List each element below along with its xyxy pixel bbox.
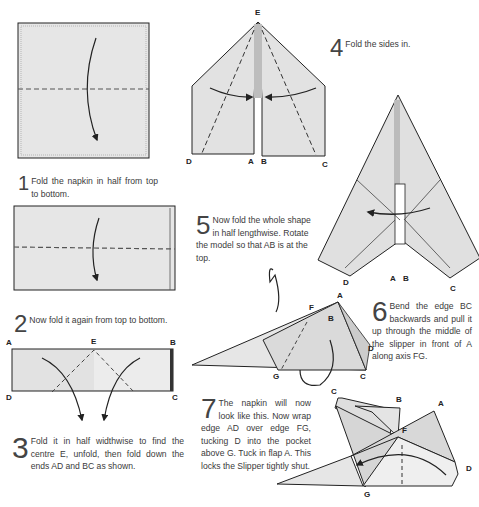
label-s7-d: D	[466, 464, 472, 473]
step-4-instruction: 4 Fold the sides in.	[330, 38, 470, 58]
label-s7-g: G	[364, 490, 370, 499]
label-s4-d: D	[186, 157, 192, 166]
label-s4-e: E	[255, 8, 260, 17]
label-s4-c: C	[322, 160, 328, 169]
step2-diagram	[14, 206, 175, 290]
label-s5-c: C	[450, 284, 456, 293]
label-s6-d: D	[368, 344, 374, 353]
step-text: Fold the napkin in half from top to bott…	[31, 176, 158, 199]
label-s7-b: B	[396, 395, 402, 404]
label-s3-b: B	[170, 338, 176, 347]
step-text: Fold the sides in.	[345, 39, 410, 49]
step1-diagram	[18, 23, 149, 158]
label-s4-b: B	[261, 157, 267, 166]
label-s6-f: F	[309, 303, 314, 312]
step-1-instruction: 1 Fold the napkin in half from top to bo…	[18, 175, 158, 200]
step-number: 1	[18, 175, 29, 192]
label-s4-a: A	[248, 157, 254, 166]
step-number: 2	[14, 314, 27, 334]
label-s5-b: B	[403, 274, 409, 283]
label-s6-g: G	[273, 372, 279, 381]
label-s7-f: F	[402, 426, 407, 435]
label-s6-c: C	[360, 372, 366, 381]
step-2-instruction: 2 Now fold it again from top to bottom.	[14, 314, 189, 334]
label-s7-c: C	[331, 387, 337, 396]
step-3-instruction: 3 Fold it in half widthwise to find the …	[12, 435, 184, 473]
step-6-instruction: 6 Bend the edge BC backwards and pull it…	[372, 300, 472, 363]
label-s3-e: E	[91, 337, 96, 346]
label-s7-a: A	[438, 399, 444, 408]
step3-diagram	[12, 349, 173, 420]
step4-diagram	[192, 22, 325, 156]
step-number: 4	[330, 38, 343, 58]
label-s3-d: D	[6, 393, 12, 402]
step-number: 5	[196, 214, 210, 236]
step-number: 6	[372, 300, 388, 324]
step-number: 7	[201, 397, 217, 421]
step5-diagram	[318, 95, 479, 278]
step-text: Fold it in half widthwise to find the ce…	[31, 436, 184, 471]
label-s3-c: C	[172, 393, 178, 402]
step-text: Now fold the whole shape in half lengthw…	[196, 215, 311, 263]
label-s6-a: A	[337, 291, 343, 300]
label-s3-a: A	[6, 338, 12, 347]
label-s5-d: D	[343, 278, 349, 287]
label-s6-b: B	[328, 314, 334, 323]
step-7-instruction: 7 The napkin will now look like this. No…	[201, 397, 311, 473]
label-s5-a: A	[390, 274, 396, 283]
step-5-instruction: 5 Now fold the whole shape in half lengt…	[196, 214, 314, 264]
step-number: 3	[12, 435, 29, 461]
step-text: The napkin will now look like this. Now …	[201, 398, 311, 471]
step-text: Now fold it again from top to bottom.	[29, 315, 167, 325]
